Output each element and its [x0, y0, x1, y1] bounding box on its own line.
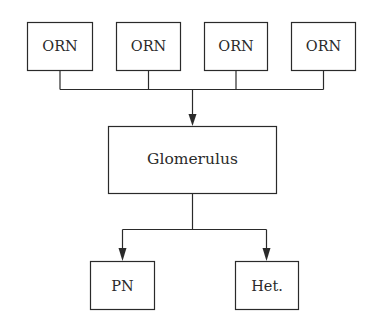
glomerulus-label: Glomerulus	[147, 150, 238, 168]
diagram-canvas: ORN ORN ORN ORN Glomerulus PN	[0, 0, 371, 330]
orn-node-4: ORN	[292, 23, 356, 71]
het-label: Het.	[251, 278, 283, 294]
het-node: Het.	[236, 262, 299, 310]
orn-label-2: ORN	[131, 38, 167, 54]
pn-label: PN	[111, 278, 134, 294]
orn-label-4: ORN	[306, 38, 342, 54]
orn-node-1: ORN	[28, 23, 93, 71]
arrow-down-icon	[263, 248, 271, 261]
input-connector	[60, 71, 324, 127]
orn-node-2: ORN	[117, 23, 181, 71]
output-connector	[119, 194, 271, 262]
orn-label-1: ORN	[42, 38, 78, 54]
pn-node: PN	[91, 262, 155, 310]
arrow-down-icon	[119, 248, 127, 261]
arrow-down-icon	[189, 114, 197, 126]
glomerulus-node: Glomerulus	[109, 127, 277, 194]
orn-node-3: ORN	[205, 23, 268, 71]
orn-label-3: ORN	[218, 38, 254, 54]
